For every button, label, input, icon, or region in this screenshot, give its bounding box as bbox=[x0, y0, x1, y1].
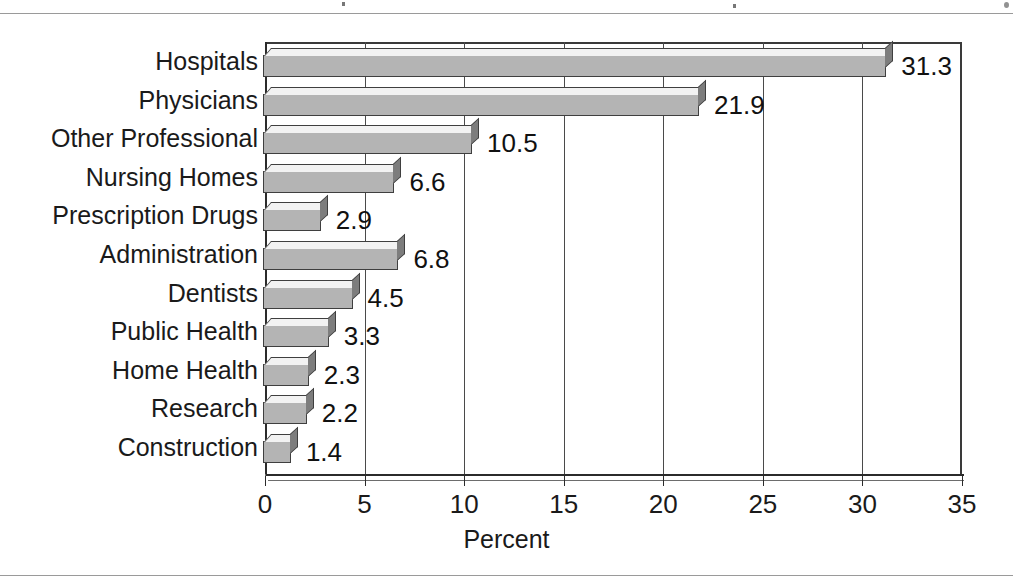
x-tick-35 bbox=[962, 476, 963, 486]
bar-public-health[interactable] bbox=[263, 325, 329, 347]
category-label-hospitals: Hospitals bbox=[0, 48, 258, 74]
x-tick-20 bbox=[663, 476, 664, 486]
category-label-other-professional: Other Professional bbox=[0, 125, 258, 151]
bar-top-face bbox=[264, 87, 705, 95]
category-label-home-health: Home Health bbox=[0, 357, 258, 383]
bar-other-professional[interactable] bbox=[263, 132, 472, 154]
x-tick-15 bbox=[564, 476, 565, 486]
x-tick-label-20: 20 bbox=[633, 489, 693, 519]
bar-physicians[interactable] bbox=[263, 94, 699, 116]
x-axis-line bbox=[265, 474, 964, 476]
bar-top-face bbox=[264, 280, 359, 288]
category-label-administration: Administration bbox=[0, 241, 258, 267]
bar-nursing-homes[interactable] bbox=[263, 171, 394, 193]
x-tick-30 bbox=[862, 476, 863, 486]
x-tick-label-5: 5 bbox=[335, 489, 395, 519]
value-label-hospitals: 31.3 bbox=[901, 53, 952, 79]
x-tick-label-30: 30 bbox=[832, 489, 892, 519]
bar-hospitals[interactable] bbox=[263, 55, 886, 77]
bar-prescription-drugs[interactable] bbox=[263, 209, 321, 231]
x-tick-25 bbox=[763, 476, 764, 486]
bar-home-health[interactable] bbox=[263, 364, 309, 386]
bar-top-face bbox=[264, 318, 335, 326]
value-label-public-health: 3.3 bbox=[344, 323, 380, 349]
gridline-30 bbox=[862, 42, 863, 474]
value-label-other-professional: 10.5 bbox=[487, 130, 538, 156]
value-label-dentists: 4.5 bbox=[368, 285, 404, 311]
x-tick-label-35: 35 bbox=[932, 489, 992, 519]
x-tick-label-15: 15 bbox=[534, 489, 594, 519]
bar-top-face bbox=[264, 164, 401, 172]
category-label-physicians: Physicians bbox=[0, 87, 258, 113]
x-tick-label-0: 0 bbox=[235, 489, 295, 519]
bar-top-face bbox=[264, 202, 327, 210]
value-label-research: 2.2 bbox=[322, 400, 358, 426]
x-axis-title: Percent bbox=[0, 525, 1013, 554]
category-label-prescription-drugs: Prescription Drugs bbox=[0, 202, 258, 228]
bar-construction[interactable] bbox=[263, 441, 291, 463]
bar-top-face bbox=[264, 125, 478, 133]
value-label-physicians: 21.9 bbox=[714, 92, 765, 118]
category-label-dentists: Dentists bbox=[0, 280, 258, 306]
bar-administration[interactable] bbox=[263, 248, 398, 270]
value-label-home-health: 2.3 bbox=[324, 362, 360, 388]
x-tick-label-10: 10 bbox=[434, 489, 494, 519]
x-tick-0 bbox=[265, 476, 266, 486]
category-label-nursing-homes: Nursing Homes bbox=[0, 164, 258, 190]
category-label-public-health: Public Health bbox=[0, 318, 258, 344]
category-label-construction: Construction bbox=[0, 434, 258, 460]
category-label-research: Research bbox=[0, 395, 258, 421]
bar-top-face bbox=[264, 241, 405, 249]
bar-dentists[interactable] bbox=[263, 287, 353, 309]
bar-research[interactable] bbox=[263, 402, 307, 424]
x-tick-10 bbox=[464, 476, 465, 486]
bar-chart: 05101520253035 HospitalsPhysiciansOther … bbox=[0, 0, 1013, 585]
x-tick-5 bbox=[365, 476, 366, 486]
value-label-construction: 1.4 bbox=[306, 439, 342, 465]
x-axis-floor-edge bbox=[268, 480, 964, 481]
value-label-prescription-drugs: 2.9 bbox=[336, 207, 372, 233]
x-tick-label-25: 25 bbox=[733, 489, 793, 519]
value-label-nursing-homes: 6.6 bbox=[409, 169, 445, 195]
bar-top-face bbox=[264, 48, 893, 56]
value-label-administration: 6.8 bbox=[413, 246, 449, 272]
